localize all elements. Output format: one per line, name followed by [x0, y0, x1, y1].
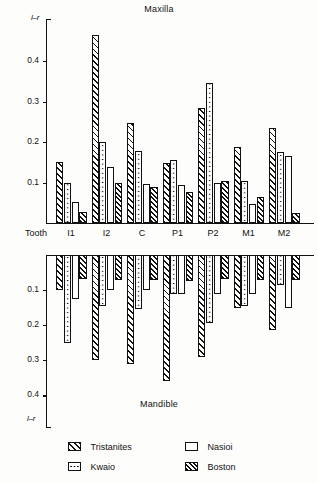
- y-axis-tick-label: 0.4: [15, 389, 39, 399]
- legend-swatch-tristanites: [68, 442, 81, 451]
- y-axis-tick-label: 0.2: [15, 319, 39, 329]
- bar-mandible-i2-nasioi: [107, 255, 114, 290]
- bar-mandible-m1-kwaio: [241, 255, 248, 306]
- bar-maxilla-i1-kwaio: [64, 183, 71, 224]
- bar-maxilla-p1-boston: [186, 192, 193, 223]
- bar-mandible-c-nasioi: [143, 255, 150, 290]
- x-axis-line: [46, 223, 314, 224]
- bar-mandible-p1-tristanites: [163, 255, 170, 381]
- y-axis-tick: [43, 142, 47, 143]
- bar-mandible-p1-nasioi: [178, 255, 185, 294]
- bar-mandible-m2-nasioi: [285, 255, 292, 308]
- bar-mandible-m1-nasioi: [249, 255, 256, 294]
- bar-mandible-p2-boston: [221, 255, 228, 279]
- figure-root: Maxilla l–r 0.10.20.30.4I1I2CP1P2M1M2 To…: [0, 0, 318, 483]
- bar-mandible-p2-tristanites: [198, 255, 205, 357]
- legend-swatch-boston: [185, 462, 198, 471]
- y-axis-tick: [43, 183, 47, 184]
- bar-mandible-i1-tristanites: [56, 255, 63, 290]
- bar-mandible-p2-kwaio: [206, 255, 213, 323]
- bar-maxilla-m2-kwaio: [277, 152, 284, 223]
- legend-item-nasioi: Nasioi: [185, 442, 233, 452]
- bar-maxilla-p1-kwaio: [170, 160, 177, 223]
- bar-maxilla-p1-nasioi: [178, 185, 185, 223]
- bar-maxilla-m1-kwaio: [241, 181, 248, 223]
- bar-maxilla-p2-kwaio: [206, 83, 213, 223]
- bar-mandible-i2-boston: [115, 255, 122, 280]
- tooth-label-c: C: [129, 228, 155, 238]
- y-axis-tick: [43, 290, 47, 291]
- bar-mandible-m2-tristanites: [269, 255, 276, 330]
- bar-maxilla-i1-tristanites: [56, 162, 63, 223]
- y-axis-line: [46, 19, 47, 224]
- bar-maxilla-c-nasioi: [143, 184, 150, 223]
- y-axis-tick-label: 0.3: [15, 96, 39, 106]
- tooth-axis-label: Tooth: [25, 228, 47, 238]
- bar-maxilla-c-kwaio: [135, 151, 142, 223]
- bar-maxilla-p2-tristanites: [198, 108, 205, 223]
- bar-mandible-p1-kwaio: [170, 255, 177, 294]
- bar-mandible-c-tristanites: [127, 255, 134, 364]
- y-axis-tick-label: 0.4: [15, 55, 39, 65]
- y-axis-tick: [43, 325, 47, 326]
- bar-maxilla-i1-boston: [79, 212, 86, 223]
- bar-maxilla-i2-nasioi: [107, 167, 114, 223]
- legend-label-tristanites: Tristanites: [91, 442, 132, 452]
- y-axis-tick-label: 0.3: [15, 354, 39, 364]
- bar-mandible-m1-boston: [257, 255, 264, 280]
- bar-mandible-i2-kwaio: [99, 255, 106, 306]
- legend-item-boston: Boston: [185, 462, 236, 472]
- legend-item-tristanites: Tristanites: [68, 442, 132, 452]
- y-axis-tick-label: 0.1: [15, 284, 39, 294]
- bar-mandible-m1-tristanites: [234, 255, 241, 308]
- bar-mandible-p1-boston: [186, 255, 193, 281]
- bar-mandible-c-kwaio: [135, 255, 142, 309]
- bar-maxilla-c-boston: [150, 187, 157, 223]
- legend-swatch-kwaio: [68, 462, 81, 471]
- bar-maxilla-m2-boston: [292, 213, 299, 223]
- bar-mandible-p2-nasioi: [214, 255, 221, 294]
- tooth-label-p2: P2: [200, 228, 226, 238]
- y-axis-cap: [46, 427, 51, 428]
- bar-maxilla-m2-nasioi: [285, 156, 292, 223]
- y-axis-tick: [43, 360, 47, 361]
- y-axis-tick-label: 0.2: [15, 136, 39, 146]
- bar-mandible-i1-kwaio: [64, 255, 71, 343]
- bar-maxilla-m1-tristanites: [234, 147, 241, 223]
- bar-maxilla-i2-boston: [115, 183, 122, 223]
- mandible-title: Mandible: [0, 399, 318, 409]
- bar-maxilla-p2-boston: [221, 181, 228, 223]
- mandible-y-axis-label: l–r: [27, 414, 35, 423]
- bar-mandible-m2-boston: [292, 255, 299, 280]
- bar-mandible-m2-kwaio: [277, 255, 284, 285]
- legend-item-kwaio: Kwaio: [68, 462, 115, 472]
- bar-maxilla-i2-tristanites: [92, 35, 99, 223]
- tooth-label-m2: M2: [271, 228, 297, 238]
- bar-maxilla-m2-tristanites: [269, 128, 276, 223]
- bar-maxilla-i1-nasioi: [72, 202, 79, 223]
- y-axis-tick: [43, 395, 47, 396]
- y-axis-tick: [43, 102, 47, 103]
- bar-maxilla-m1-boston: [257, 197, 264, 223]
- bar-maxilla-m1-nasioi: [249, 204, 256, 223]
- maxilla-plot-area: 0.10.20.30.4I1I2CP1P2M1M2: [0, 0, 318, 232]
- y-axis-tick-label: 0.1: [15, 177, 39, 187]
- bar-maxilla-p1-tristanites: [163, 163, 170, 223]
- legend-label-kwaio: Kwaio: [91, 462, 116, 472]
- tooth-label-i1: I1: [58, 228, 84, 238]
- legend-label-nasioi: Nasioi: [208, 442, 233, 452]
- legend-label-boston: Boston: [208, 462, 236, 472]
- y-axis-tick: [43, 61, 47, 62]
- bar-mandible-c-boston: [150, 255, 157, 280]
- legend-swatch-nasioi: [185, 442, 198, 451]
- bar-maxilla-c-tristanites: [127, 123, 134, 223]
- bar-mandible-i1-boston: [79, 255, 86, 279]
- tooth-label-p1: P1: [165, 228, 191, 238]
- bar-mandible-i2-tristanites: [92, 255, 99, 360]
- bar-mandible-i1-nasioi: [72, 255, 79, 299]
- y-axis-cap: [46, 19, 51, 20]
- bar-maxilla-i2-kwaio: [99, 142, 106, 223]
- tooth-label-i2: I2: [94, 228, 120, 238]
- tooth-label-m1: M1: [236, 228, 262, 238]
- bar-maxilla-p2-nasioi: [214, 183, 221, 223]
